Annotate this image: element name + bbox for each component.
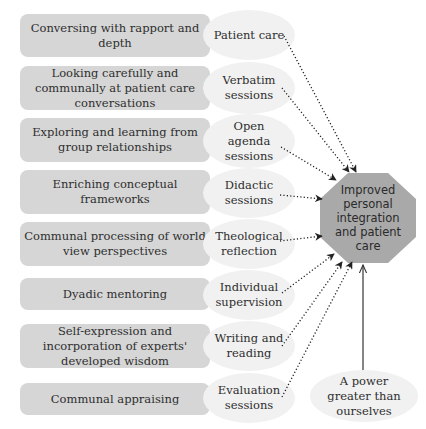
- arrow-theological: [280, 236, 322, 241]
- center-label: Improved personal integration and patien…: [320, 173, 416, 263]
- external-oval-power: A power greater than ourselves: [310, 370, 418, 422]
- arrow-verbatim: [282, 88, 349, 172]
- external-label: A power greater than ourselves: [319, 374, 409, 419]
- arrow-didactic: [280, 195, 322, 199]
- arrow-writing-reading: [282, 262, 342, 346]
